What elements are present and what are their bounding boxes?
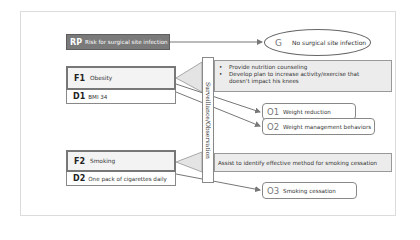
data-box-d2: D2 One pack of cigarettes daily [66, 172, 176, 186]
outcome-box-o2: O2 Weight management behaviors [262, 118, 375, 135]
intervention-box-f1: Provide nutrition counseling Develop pla… [214, 60, 392, 92]
outcome-code: O1 [267, 107, 279, 117]
factor-label: Obesity [90, 75, 112, 81]
data-code: D2 [73, 174, 85, 183]
intervention-item: Provide nutrition counseling [229, 64, 391, 71]
goal-code: G [275, 38, 282, 48]
factor-box-f1: F1 Obesity [66, 66, 176, 90]
data-box-d1: D1 BMI 34 [66, 90, 176, 104]
factor-label: Smoking [90, 158, 115, 164]
rp-label: Risk for surgical site infection [85, 39, 168, 45]
factor-box-f2: F2 Smoking [66, 150, 176, 172]
intervention-item: Develop plan to increase activity/exerci… [229, 71, 391, 85]
risk-problem-box: RP Risk for surgical site infection [66, 34, 170, 50]
goal-label: No surgical site infection [292, 39, 366, 46]
goal-ellipse: G No surgical site infection [264, 29, 371, 56]
outcome-code: O3 [267, 186, 279, 196]
outcome-label: Weight reduction [283, 109, 331, 115]
factor-code: F1 [74, 74, 85, 83]
outcome-label: Weight management behaviors [283, 124, 371, 130]
outcome-code: O2 [267, 122, 279, 132]
data-label: BMI 34 [88, 94, 107, 100]
intervention-box-f2: Assist to identify effective method for … [214, 153, 392, 172]
surveillance-column: Surveillance/Observation [202, 57, 214, 183]
rp-code: RP [70, 38, 82, 47]
outcome-box-o3: O3 Smoking cessation [262, 182, 357, 199]
data-label: One pack of cigarettes daily [88, 176, 167, 182]
outcome-label: Smoking cessation [283, 188, 336, 194]
surveillance-label: Surveillance/Observation [205, 82, 212, 159]
intervention-item: Assist to identify effective method for … [218, 160, 377, 166]
data-code: D1 [73, 92, 85, 101]
factor-code: F2 [74, 157, 85, 166]
